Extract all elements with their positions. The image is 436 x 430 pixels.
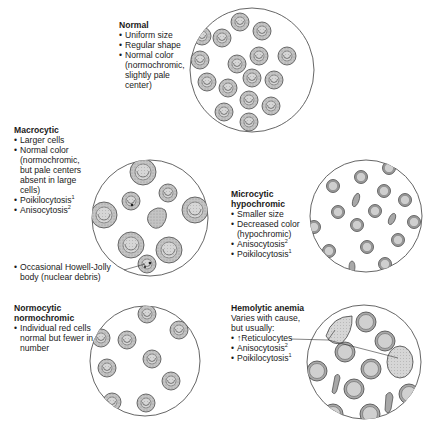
microcytic-smear-circle: [308, 160, 423, 273]
blood-smear-diagram: [0, 0, 436, 430]
macrocytic-bullet: Anisocytosis2: [14, 205, 88, 215]
macrocytic-bullet: Poikilocytosis1: [14, 195, 88, 205]
normocytic-title-2: normochromic: [14, 313, 94, 323]
microcytic-title-2: hypochromic: [231, 199, 309, 209]
normal-bullet: Normal color (normochromic, slightly pal…: [119, 50, 189, 90]
normocytic-bullet: Individual red cells normal but fewer in…: [14, 323, 94, 353]
microcytic-bullet: Decreased color (hypochromic): [231, 219, 309, 239]
hemolytic-bullet: ↑Reticulocytes: [231, 333, 311, 343]
microcytic-bullet: Smaller size: [231, 209, 309, 219]
normal-label: Normal Uniform size Regular shape Normal…: [119, 20, 189, 90]
hemolytic-bullet: Poikilocytosis1: [231, 353, 311, 363]
normal-smear-circle: [190, 8, 314, 132]
macrocytic-bullet: Larger cells: [14, 135, 88, 145]
howell-jolly-callout: Occasional Howell-Jolly body (nuclear de…: [14, 262, 129, 282]
microcytic-bullet: Poikilocytosis1: [231, 249, 309, 259]
microcytic-label: Microcytic hypochromic Smaller size Decr…: [231, 189, 309, 259]
macrocytic-title: Macrocytic: [14, 125, 88, 135]
normocytic-title: Normocytic: [14, 303, 94, 313]
normocytic-label: Normocytic normochromic Individual red c…: [14, 303, 94, 353]
normal-bullet: Regular shape: [119, 40, 189, 50]
hemolytic-bullet: Anisocytosis2: [231, 343, 311, 353]
normal-title: Normal: [119, 20, 189, 30]
hemolytic-smear-circle: [307, 305, 421, 424]
macrocytic-bullet: Normal color (normochromic, but pale cen…: [14, 145, 88, 195]
macrocytic-label: Macrocytic Larger cells Normal color (no…: [14, 125, 88, 215]
microcytic-bullet: Anisocytosis2: [231, 239, 309, 249]
normal-bullet: Uniform size: [119, 30, 189, 40]
hemolytic-title: Hemolytic anemia: [231, 303, 311, 313]
microcytic-title: Microcytic: [231, 189, 309, 199]
hemolytic-label: Hemolytic anemia Varies with cause, but …: [231, 303, 311, 363]
macrocytic-smear-circle: [91, 159, 208, 276]
normocytic-smear-circle: [90, 305, 200, 416]
hemolytic-intro: Varies with cause, but usually:: [231, 313, 311, 333]
